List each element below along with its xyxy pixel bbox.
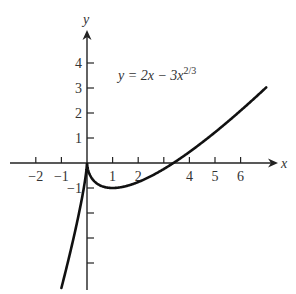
y-tick-labels: 1234−1 (67, 56, 82, 196)
x-tick-label: 5 (212, 169, 219, 184)
x-tick-label: 4 (186, 169, 193, 184)
y-axis-label: y (81, 12, 90, 27)
y-tick-label: −1 (67, 181, 82, 196)
y-tick-label: 4 (75, 56, 82, 71)
x-ticks (36, 157, 241, 163)
x-axis-label: x (280, 156, 288, 171)
y-tick-label: 1 (75, 131, 82, 146)
function-plot: −2−112456 1234−1 x y y = 2x − 3x2/3 (0, 0, 296, 294)
equation-label: y = 2x − 3x2/3 (116, 65, 196, 83)
equation-exponent: 2/3 (184, 65, 197, 76)
y-tick-label: 2 (75, 106, 82, 121)
x-tick-label: 6 (237, 169, 244, 184)
equation-lhs: y = 2x − 3x (116, 68, 184, 83)
x-tick-label: −2 (28, 169, 43, 184)
y-tick-label: 3 (75, 81, 82, 96)
x-tick-label: 1 (109, 169, 116, 184)
